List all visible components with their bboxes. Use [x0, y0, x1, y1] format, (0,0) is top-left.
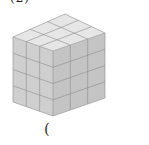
answer-open-parenthesis: (: [44, 122, 50, 137]
cube-block-figure: [0, 0, 149, 145]
